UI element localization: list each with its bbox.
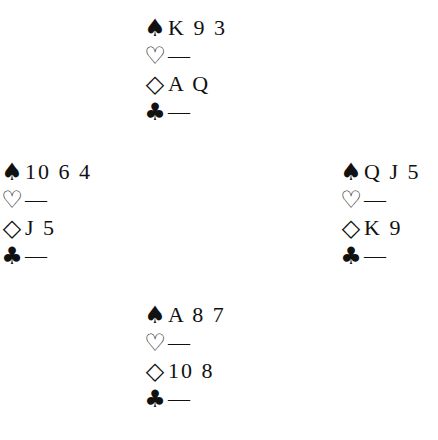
east-hearts: ♡—: [339, 186, 420, 214]
north-hand: ♠K 9 3 ♡— ◇A Q ♣—: [143, 14, 227, 126]
diamond-icon: ◇: [0, 214, 24, 242]
west-diamonds: ◇J 5: [0, 214, 92, 242]
spade-icon: ♠: [143, 301, 167, 329]
diamond-icon: ◇: [339, 214, 363, 242]
diamond-icon: ◇: [143, 70, 167, 98]
north-clubs: ♣—: [143, 98, 227, 126]
west-hand: ♠10 6 4 ♡— ◇J 5 ♣—: [0, 158, 92, 270]
east-clubs: ♣—: [339, 242, 420, 270]
north-diamonds: ◇A Q: [143, 70, 227, 98]
west-clubs: ♣—: [0, 242, 92, 270]
north-spades: ♠K 9 3: [143, 14, 227, 42]
south-spades: ♠A 8 7: [143, 301, 226, 329]
club-icon: ♣: [143, 385, 167, 413]
club-icon: ♣: [339, 242, 363, 270]
west-hearts: ♡—: [0, 186, 92, 214]
east-hand: ♠Q J 5 ♡— ◇K 9 ♣—: [339, 158, 420, 270]
spade-icon: ♠: [339, 158, 363, 186]
club-icon: ♣: [143, 98, 167, 126]
east-diamonds: ◇K 9: [339, 214, 420, 242]
south-hand: ♠A 8 7 ♡— ◇10 8 ♣—: [143, 301, 226, 413]
south-diamonds: ◇10 8: [143, 357, 226, 385]
south-clubs: ♣—: [143, 385, 226, 413]
spade-icon: ♠: [143, 14, 167, 42]
east-spades: ♠Q J 5: [339, 158, 420, 186]
heart-icon: ♡: [0, 186, 24, 214]
diamond-icon: ◇: [143, 357, 167, 385]
heart-icon: ♡: [339, 186, 363, 214]
north-hearts: ♡—: [143, 42, 227, 70]
club-icon: ♣: [0, 242, 24, 270]
spade-icon: ♠: [0, 158, 24, 186]
south-hearts: ♡—: [143, 329, 226, 357]
west-spades: ♠10 6 4: [0, 158, 92, 186]
heart-icon: ♡: [143, 42, 167, 70]
heart-icon: ♡: [143, 329, 167, 357]
